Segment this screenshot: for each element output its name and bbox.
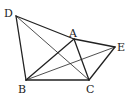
vertex-labels: D A E B C (4, 7, 125, 95)
segment-ae (74, 39, 115, 47)
geometry-diagram: D A E B C (0, 0, 133, 95)
label-e: E (117, 41, 125, 54)
segment-db (16, 16, 26, 80)
label-c: C (86, 83, 94, 95)
label-d: D (4, 7, 13, 20)
label-a: A (68, 27, 78, 40)
segment-ba (26, 39, 74, 80)
label-b: B (18, 83, 26, 95)
segments (16, 16, 115, 80)
segment-da (16, 16, 74, 39)
